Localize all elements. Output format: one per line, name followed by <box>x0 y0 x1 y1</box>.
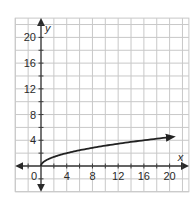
x-tick-label: 16 <box>138 170 150 182</box>
x-tick-label: 20 <box>163 170 175 182</box>
graph: 4812162048121620 x y 0 <box>0 0 193 204</box>
y-tick-label: 12 <box>24 83 36 95</box>
x-tick-label: 8 <box>89 170 95 182</box>
x-tick-label: 12 <box>112 170 124 182</box>
axes <box>17 20 187 190</box>
x-axis-label: x <box>177 151 184 163</box>
y-tick-label: 4 <box>30 134 36 146</box>
origin-label: 0 <box>31 170 37 182</box>
y-tick-label: 20 <box>24 31 36 43</box>
y-tick-label: 16 <box>24 57 36 69</box>
y-tick-label: 8 <box>30 109 36 121</box>
x-tick-label: 4 <box>64 170 70 182</box>
sqrt-curve <box>41 137 173 166</box>
